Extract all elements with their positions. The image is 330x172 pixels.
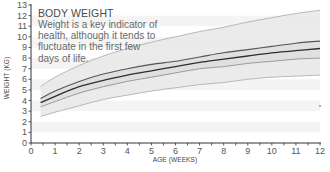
x-tick-label: 6 (173, 146, 178, 156)
x-tick-label: 3 (101, 146, 106, 156)
annotation-line: days of life. (38, 53, 178, 64)
annotation-line: fluctuate in the first few (38, 41, 178, 52)
y-tick-label: 6 (22, 74, 27, 84)
y-tick-label: 11 (18, 21, 27, 31)
y-tick-label: 1 (22, 127, 27, 137)
x-tick-label: 5 (149, 146, 154, 156)
x-tick-label: 10 (267, 146, 277, 156)
y-tick-label: 7 (22, 64, 27, 74)
x-tick-label: 2 (77, 146, 82, 156)
y-tick-label: 3 (22, 106, 27, 116)
annotation-line: Weight is a key indicator of (38, 19, 178, 30)
annotation-box: BODY WEIGHT Weight is a key indicator of… (38, 8, 178, 64)
y-tick-label: 0 (22, 138, 27, 148)
y-tick-label: 8 (22, 53, 27, 63)
y-tick-label: 10 (17, 32, 27, 42)
x-tick-label: 1 (53, 146, 58, 156)
y-tick-label: 9 (22, 42, 27, 52)
x-tick-label: 8 (221, 146, 226, 156)
x-axis-ticks: 0123456789101112 (28, 143, 325, 156)
y-tick-label: 4 (22, 96, 27, 106)
x-tick-label: 9 (245, 146, 250, 156)
annotation-line: health, although it tends to (38, 30, 178, 41)
x-tick-label: 12 (315, 146, 325, 156)
y-tick-label: 2 (22, 117, 27, 127)
y-axis-ticks: 012345678910111213 (17, 0, 31, 148)
x-tick-label: 0 (28, 146, 33, 156)
y-tick-label: 12 (17, 11, 27, 21)
x-tick-label: 11 (291, 146, 300, 156)
grid-band (31, 122, 320, 133)
x-tick-label: 4 (125, 146, 130, 156)
y-axis-title: WEIGHT (KG) (3, 57, 11, 100)
stray-data-point (319, 105, 321, 107)
x-axis-title: AGE (WEEKS) (153, 156, 197, 164)
y-tick-label: 13 (17, 0, 27, 10)
annotation-body: Weight is a key indicator of health, alt… (38, 19, 178, 64)
x-tick-label: 7 (197, 146, 202, 156)
annotation-title: BODY WEIGHT (38, 8, 178, 19)
y-tick-label: 5 (22, 85, 27, 95)
